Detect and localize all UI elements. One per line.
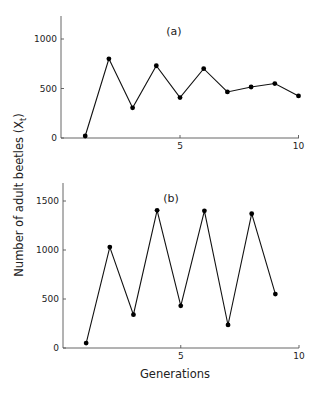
panel-label: (b) (163, 192, 179, 205)
data-point (155, 208, 160, 213)
data-point (249, 211, 254, 216)
series-line (86, 210, 275, 343)
data-point (225, 90, 230, 95)
y-tick-label: 500 (42, 294, 59, 304)
data-point (107, 56, 112, 61)
panel-b: 050010001500510(b) (36, 183, 305, 361)
data-point (296, 94, 301, 99)
data-point (178, 95, 183, 100)
figure: 05001000510(a) 050010001500510(b) Number… (0, 0, 318, 396)
data-point (131, 312, 136, 317)
x-tick-label: 5 (177, 141, 183, 151)
data-point (249, 85, 254, 90)
y-axis-title: Number of adult beetles (Xt) (12, 113, 28, 276)
population-chart: 05001000510(a) 050010001500510(b) Number… (0, 0, 318, 396)
x-tick-label: 10 (293, 141, 305, 151)
data-point (84, 341, 89, 346)
data-point (201, 66, 206, 71)
data-point (272, 81, 277, 86)
panel-label: (a) (166, 25, 181, 38)
panel-a: 05001000510(a) (34, 16, 304, 151)
data-point (273, 292, 278, 297)
x-axis-title: Generations (140, 367, 210, 381)
data-point (178, 303, 183, 308)
data-point (202, 208, 207, 213)
x-tick-label: 10 (293, 351, 305, 361)
data-point (130, 105, 135, 110)
y-tick-label: 1500 (36, 196, 59, 206)
y-tick-label: 1000 (34, 34, 57, 44)
y-tick-label: 0 (53, 343, 59, 353)
series-line (85, 59, 298, 136)
data-point (226, 323, 231, 328)
axes: 050010001500510 (36, 183, 305, 361)
x-tick-label: 5 (178, 351, 184, 361)
y-tick-label: 1000 (36, 245, 59, 255)
y-tick-label: 0 (51, 133, 57, 143)
data-point (83, 134, 88, 139)
data-point (107, 245, 112, 250)
y-tick-label: 500 (40, 84, 57, 94)
data-point (154, 63, 159, 68)
